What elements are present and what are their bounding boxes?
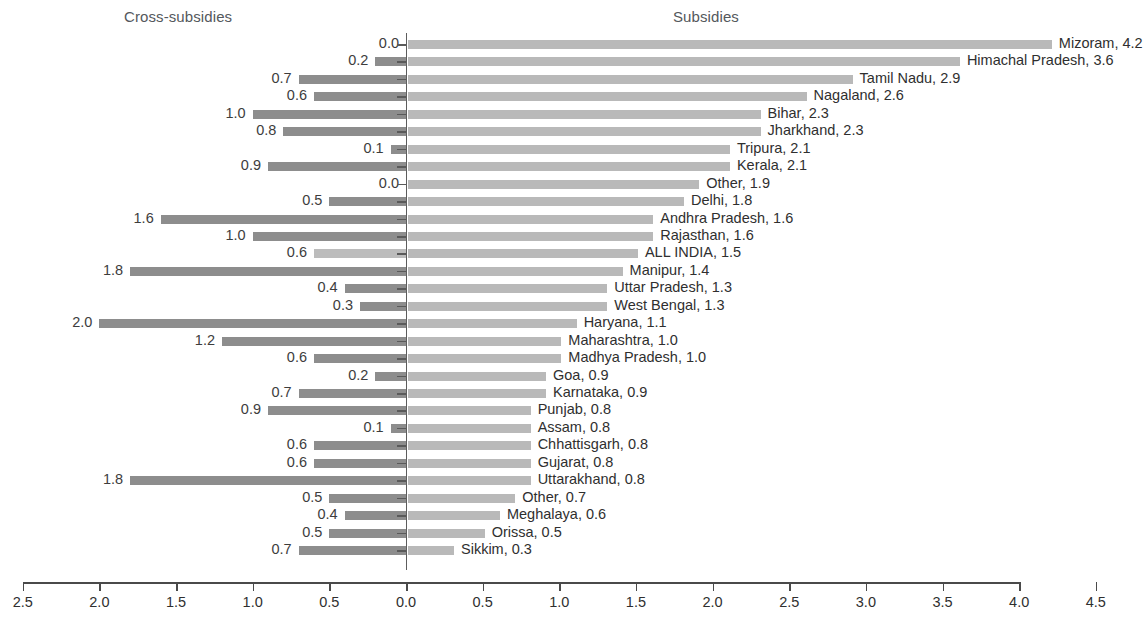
axis-row-tick	[397, 445, 406, 447]
cross-subsidies-value-label: 0.2	[348, 367, 368, 383]
chart-row: 0.4Uttar Pradesh, 1.3	[0, 281, 1066, 298]
cross-subsidies-value-label: 0.5	[302, 489, 322, 505]
axis-row-tick	[397, 323, 406, 325]
cross-subsidies-value-label: 0.6	[287, 349, 307, 365]
row-category-label: Haryana, 1.1	[584, 314, 667, 330]
row-category-label: Maharashtra, 1.0	[568, 332, 678, 348]
chart-row: 0.6Nagaland, 2.6	[0, 89, 1066, 106]
x-axis-tick	[1096, 582, 1098, 591]
subsidies-bar	[408, 372, 546, 381]
row-category-label: Gujarat, 0.8	[538, 454, 614, 470]
cross-subsidies-value-label: 0.9	[241, 401, 261, 417]
axis-row-tick	[397, 96, 406, 98]
row-category-label: Chhattisgarh, 0.8	[538, 436, 648, 452]
row-category-label: Sikkim, 0.3	[461, 541, 532, 557]
subsidies-bar	[408, 40, 1052, 49]
subsidies-bar	[408, 546, 454, 555]
row-category-label: Delhi, 1.8	[691, 192, 752, 208]
subsidies-bar	[408, 75, 853, 84]
axis-row-tick	[397, 376, 406, 378]
cross-subsidies-value-label: 0.1	[363, 419, 383, 435]
axis-row-tick	[397, 201, 406, 203]
cross-subsidies-value-label: 0.7	[272, 384, 292, 400]
x-axis-tick	[253, 582, 255, 591]
axis-row-tick	[397, 515, 406, 517]
subsidies-bar	[408, 529, 485, 538]
x-axis-tick	[943, 582, 945, 591]
cross-subsidies-value-label: 0.4	[318, 279, 338, 295]
subsidies-bar	[408, 319, 577, 328]
chart-row: 0.9Punjab, 0.8	[0, 403, 1066, 420]
x-axis-tick-label: 4.5	[1086, 594, 1106, 610]
row-category-label: Orissa, 0.5	[492, 524, 562, 540]
cross-subsidies-bar	[299, 546, 406, 555]
cross-subsidies-value-label: 0.6	[287, 87, 307, 103]
cross-subsidies-bar	[299, 389, 406, 398]
chart-row: 1.8Manipur, 1.4	[0, 264, 1066, 281]
cross-subsidies-value-label: 0.4	[318, 506, 338, 522]
subsidies-bar	[408, 162, 730, 171]
cross-subsidies-bar	[314, 441, 406, 450]
axis-row-tick	[397, 393, 406, 395]
x-axis-tick-label: 1.0	[549, 594, 569, 610]
subsidies-bar	[408, 127, 761, 136]
x-axis-tick	[1019, 582, 1021, 591]
chart-row: 0.0Mizoram, 4.2	[0, 37, 1066, 54]
chart-row: 1.0Rajasthan, 1.6	[0, 229, 1066, 246]
x-axis-tick-label: 2.0	[89, 594, 109, 610]
row-category-label: Other, 1.9	[706, 175, 770, 191]
chart-row: 0.6Gujarat, 0.8	[0, 456, 1066, 473]
subsidies-bar	[408, 441, 531, 450]
zero-axis-line	[406, 33, 407, 570]
chart-row: 0.9Kerala, 2.1	[0, 159, 1066, 176]
x-axis-tick-label: 1.5	[626, 594, 646, 610]
axis-row-tick	[397, 533, 406, 535]
cross-subsidies-value-label: 2.0	[72, 314, 92, 330]
axis-row-tick	[397, 149, 406, 151]
axis-row-tick	[397, 271, 406, 273]
row-category-label: Mizoram, 4.2	[1059, 35, 1143, 51]
chart-row: 0.6ALL INDIA, 1.5	[0, 246, 1066, 263]
row-category-label: Jharkhand, 2.3	[768, 122, 864, 138]
row-category-label: Uttar Pradesh, 1.3	[614, 279, 732, 295]
cross-subsidies-value-label: 0.7	[272, 541, 292, 557]
axis-row-tick	[397, 288, 406, 290]
x-axis-tick	[866, 582, 868, 591]
axis-row-tick	[397, 253, 406, 255]
cross-subsidies-value-label: 0.3	[333, 297, 353, 313]
x-axis: 2.52.01.51.00.50.00.51.01.52.02.53.03.54…	[0, 570, 1066, 621]
cross-subsidies-bar	[314, 92, 406, 101]
subsidies-bar	[408, 511, 500, 520]
x-axis-tick	[636, 582, 638, 591]
subsidies-bar	[408, 389, 546, 398]
chart-row: 1.0Bihar, 2.3	[0, 107, 1066, 124]
cross-subsidies-bar	[268, 406, 406, 415]
axis-row-tick	[397, 44, 406, 46]
axis-row-tick	[397, 358, 406, 360]
cross-subsidies-value-label: 0.5	[302, 524, 322, 540]
row-category-label: Kerala, 2.1	[737, 157, 807, 173]
axis-row-tick	[397, 341, 406, 343]
x-axis-tick-label: 1.0	[243, 594, 263, 610]
row-category-label: Uttarakhand, 0.8	[538, 471, 645, 487]
cross-subsidies-value-label: 0.6	[287, 436, 307, 452]
right-panel-title: Subsidies	[673, 8, 739, 25]
axis-row-tick	[397, 166, 406, 168]
x-axis-tick-label: 1.5	[166, 594, 186, 610]
cross-subsidies-bar	[314, 459, 406, 468]
x-axis-tick-label: 3.5	[932, 594, 952, 610]
row-category-label: West Bengal, 1.3	[614, 297, 724, 313]
cross-subsidies-value-label: 0.1	[363, 140, 383, 156]
cross-subsidies-bar	[253, 110, 406, 119]
subsidies-bar	[408, 215, 653, 224]
axis-row-tick	[397, 463, 406, 465]
cross-subsidies-bar	[299, 75, 406, 84]
x-axis-tick-label: 0.0	[396, 594, 416, 610]
cross-subsidies-bar	[283, 127, 406, 136]
subsidies-bar	[408, 284, 607, 293]
row-category-label: Bihar, 2.3	[768, 105, 829, 121]
row-category-label: Other, 0.7	[522, 489, 586, 505]
x-axis-tick	[176, 582, 178, 591]
axis-row-tick	[397, 184, 406, 186]
